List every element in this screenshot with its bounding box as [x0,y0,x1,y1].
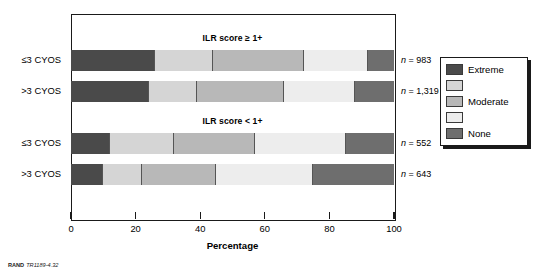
n-symbol: n [401,55,406,65]
bar-segment [313,164,394,185]
stacked-bar-row [71,133,394,154]
legend-label: Moderate [468,96,509,107]
figure-footer: RANDTR1189-4.32 [8,262,58,268]
stacked-bar-row [71,50,394,71]
legend-item [446,110,527,125]
bar-segment [355,81,394,102]
x-tick-mark [200,212,201,219]
category-label-row-3: >3 CYOS [0,168,61,179]
x-tick-label: 60 [245,223,285,234]
n-symbol: n [401,86,406,96]
x-tick-mark [135,212,136,219]
n-value: 643 [416,169,431,179]
bar-segment [149,81,197,102]
sample-size-label-row-1: n = 1,319 [401,86,439,96]
bar-segment [346,133,394,154]
bar-segment [71,164,103,185]
footer-document-id: TR1189-4.32 [26,262,58,268]
bar-segment [174,133,255,154]
bar-segment [213,50,303,71]
bar-segment [71,50,155,71]
bar-segment [110,133,175,154]
bar-segment [142,164,216,185]
bar-segment [197,81,284,102]
category-label-row-2: ≤3 CYOS [0,137,61,148]
legend-swatch [446,64,463,75]
bar-segment [71,81,149,102]
x-tick-label: 80 [309,223,349,234]
bar-segment [216,164,313,185]
legend-swatch [446,80,463,91]
n-equals: = [409,138,414,148]
group-title-ilr-ge-1: ILR score ≥ 1+ [71,33,394,43]
x-tick-label: 100 [374,223,414,234]
sample-size-label-row-3: n = 643 [401,169,431,179]
bar-segment [284,81,355,102]
x-tick-mark [70,212,71,219]
n-equals: = [409,55,414,65]
x-tick-mark [329,212,330,219]
stacked-bar-row [71,164,394,185]
legend: ExtremeModerateNone [440,57,528,146]
category-label-row-1: >3 CYOS [0,85,61,96]
n-equals: = [409,86,414,96]
n-symbol: n [401,138,406,148]
n-value: 1,319 [416,86,439,96]
x-axis-title: Percentage [71,240,394,251]
group-title-ilr-lt-1: ILR score < 1+ [71,116,394,126]
bar-segment [71,133,110,154]
legend-label: Extreme [468,64,504,75]
bar-segment [368,50,394,71]
x-tick-label: 20 [116,223,156,234]
legend-item: None [446,126,527,141]
legend-item: Extreme [446,62,527,77]
legend-swatch [446,112,463,123]
bar-segment [255,133,345,154]
stacked-bar-row [71,81,394,102]
n-value: 552 [416,138,431,148]
n-symbol: n [401,169,406,179]
n-value: 983 [416,55,431,65]
n-equals: = [409,169,414,179]
x-tick-label: 0 [51,223,91,234]
footer-brand: RAND [8,262,24,268]
legend-item [446,78,527,93]
figure-root: ILR score ≥ 1+ ILR score < 1+ ≤3 CYOS >3… [0,0,539,278]
x-tick-label: 40 [180,223,220,234]
bar-segment [304,50,369,71]
legend-swatch [446,128,463,139]
sample-size-label-row-0: n = 983 [401,55,431,65]
legend-label: None [468,128,491,139]
bar-segment [103,164,142,185]
sample-size-label-row-2: n = 552 [401,138,431,148]
bar-segment [155,50,213,71]
category-label-row-0: ≤3 CYOS [0,54,61,65]
legend-swatch [446,96,463,107]
legend-item: Moderate [446,94,527,109]
x-tick-mark [264,212,265,219]
x-tick-mark [393,212,394,219]
